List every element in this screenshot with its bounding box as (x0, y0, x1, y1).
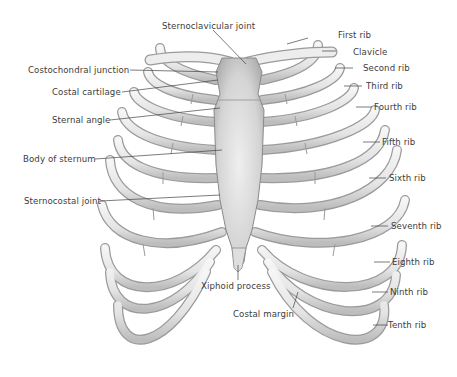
label-fifth-rib: Fifth rib (382, 137, 415, 147)
label-sternal-angle: Sternal angle (52, 115, 110, 125)
label-first-rib: First rib (338, 30, 371, 40)
label-sternoclavicular-joint: Sternoclavicular joint (162, 21, 255, 31)
label-sternocostal-joint: Sternocostal joint (24, 196, 101, 206)
label-second-rib: Second rib (363, 63, 410, 73)
label-sixth-rib: Sixth rib (389, 173, 426, 183)
thoracic-cage-diagram: Sternoclavicular joint First rib Clavicl… (0, 0, 457, 377)
label-costal-margin: Costal margin (233, 309, 294, 319)
label-tenth-rib: Tenth rib (388, 320, 426, 330)
sternum (214, 58, 264, 270)
label-seventh-rib: Seventh rib (391, 221, 442, 231)
label-costal-cartilage: Costal cartilage (52, 87, 121, 97)
label-costochondral-junction: Costochondral junction (28, 65, 129, 75)
label-eighth-rib: Eighth rib (392, 257, 435, 267)
label-third-rib: Third rib (366, 81, 403, 91)
label-body-of-sternum: Body of sternum (23, 154, 96, 164)
label-xiphoid-process: Xiphoid process (201, 281, 271, 291)
label-ninth-rib: Ninth rib (390, 287, 428, 297)
xiphoid (232, 248, 246, 272)
label-fourth-rib: Fourth rib (374, 102, 417, 112)
label-clavicle: Clavicle (353, 47, 387, 57)
